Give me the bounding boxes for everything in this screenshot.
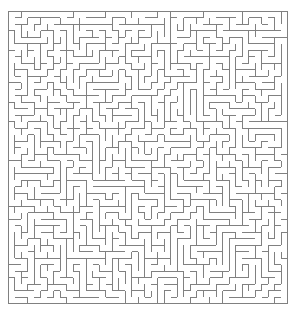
maze-figure <box>0 0 298 314</box>
maze-background <box>0 0 298 314</box>
maze-canvas <box>0 0 298 314</box>
